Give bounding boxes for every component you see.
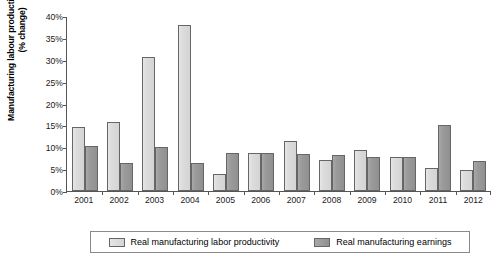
x-axis-label-2012: 2012: [456, 195, 491, 205]
bar-2002-series1: [107, 122, 120, 191]
bar-2006-series1: [248, 153, 261, 191]
bar-group-2003: [138, 17, 173, 191]
legend-label: Real manufacturing labor productivity: [131, 237, 280, 247]
bar-2002-series2: [120, 163, 133, 191]
x-axis-label-2005: 2005: [208, 195, 243, 205]
bar-2005-series1: [213, 174, 226, 191]
bar-2009-series2: [367, 157, 380, 191]
x-axis-label-2007: 2007: [279, 195, 314, 205]
y-axis-tick-label: 20%: [29, 100, 63, 110]
y-axis-tick-label: 15%: [29, 121, 63, 131]
x-axis-label-2011: 2011: [420, 195, 455, 205]
bar-2005-series2: [226, 153, 239, 192]
bar-2003-series2: [155, 147, 168, 191]
x-axis-label-2009: 2009: [349, 195, 384, 205]
bar-group-2011: [420, 17, 455, 191]
y-axis-tick-label: 10%: [29, 143, 63, 153]
bar-2004-series2: [191, 163, 204, 191]
legend-entry-1: Real manufacturing labor productivity: [109, 237, 280, 247]
y-axis-tick-label: 0%: [29, 187, 63, 197]
bar-2009-series1: [354, 150, 367, 191]
bar-chart-figure: Manufacturing labour productivity & earn…: [0, 0, 497, 262]
x-axis-label-2003: 2003: [137, 195, 172, 205]
bar-2008-series1: [319, 160, 332, 191]
y-axis-tick-label: 25%: [29, 78, 63, 88]
bar-2012-series2: [473, 161, 486, 191]
legend-label: Real manufacturing earnings: [336, 237, 451, 247]
chart-legend: Real manufacturing labor productivityRea…: [90, 231, 470, 253]
y-axis-tick-mark: [63, 192, 67, 193]
bar-2006-series2: [261, 153, 274, 191]
bar-2007-series1: [284, 141, 297, 191]
bar-2011-series2: [438, 125, 451, 191]
x-axis-label-2004: 2004: [172, 195, 207, 205]
x-axis-label-2006: 2006: [243, 195, 278, 205]
plot-area: 0%5%10%15%20%25%30%35%40%: [66, 17, 491, 192]
bar-group-2006: [244, 17, 279, 191]
bar-2011-series1: [425, 168, 438, 191]
bar-2010-series2: [403, 157, 416, 191]
bar-group-2010: [385, 17, 420, 191]
bar-2001-series1: [72, 127, 85, 191]
legend-entry-2: Real manufacturing earnings: [314, 237, 451, 247]
bar-group-2012: [456, 17, 491, 191]
bar-group-2005: [208, 17, 243, 191]
bar-group-container: [67, 17, 491, 191]
x-axis-tick-labels: 2001200220032004200520062007200820092010…: [66, 195, 491, 205]
y-axis-tick-label: 5%: [29, 165, 63, 175]
bar-2012-series1: [460, 170, 473, 191]
x-axis-label-2010: 2010: [385, 195, 420, 205]
bar-2007-series2: [297, 154, 310, 191]
bar-2001-series2: [85, 146, 98, 191]
y-axis-tick-label: 40%: [29, 12, 63, 22]
legend-swatch-dark-gray-icon: [314, 238, 330, 247]
bar-group-2009: [350, 17, 385, 191]
bar-group-2008: [314, 17, 349, 191]
bar-group-2004: [173, 17, 208, 191]
bar-2010-series1: [390, 157, 403, 191]
bar-group-2002: [102, 17, 137, 191]
y-axis-tick-label: 35%: [29, 34, 63, 44]
y-axis-tick-label: 30%: [29, 56, 63, 66]
bar-2004-series1: [178, 25, 191, 191]
legend-swatch-light-gray-icon: [109, 238, 125, 247]
x-axis-label-2001: 2001: [66, 195, 101, 205]
x-axis-label-2008: 2008: [314, 195, 349, 205]
bar-2003-series1: [142, 57, 155, 191]
x-axis-label-2002: 2002: [101, 195, 136, 205]
bar-group-2001: [67, 17, 102, 191]
y-axis-title: Manufacturing labour productivity & earn…: [2, 0, 32, 125]
bar-2008-series2: [332, 155, 345, 191]
bar-group-2007: [279, 17, 314, 191]
